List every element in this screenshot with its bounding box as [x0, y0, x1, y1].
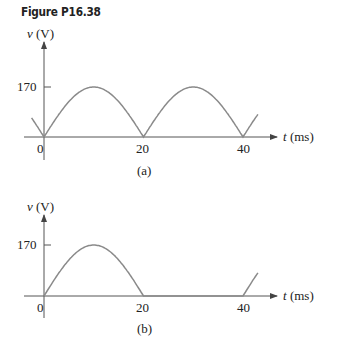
ytick-label-a: 170 — [17, 79, 37, 94]
xtick-20-a: 20 — [136, 141, 149, 156]
xlabel-b: t (ms) — [283, 288, 314, 303]
ylabel-a: v (V) — [27, 26, 54, 41]
caption-a: (a) — [137, 163, 151, 178]
figure-canvas: v (V) 170 0 20 40 t (ms) (a) v (V) 170 0… — [0, 0, 344, 360]
panel-b: v (V) 170 0 20 40 t (ms) (b) — [17, 199, 314, 336]
curve-a — [32, 87, 258, 137]
panel-a: v (V) 170 0 20 40 t (ms) (a) — [17, 26, 314, 178]
xtick-40-b: 40 — [237, 300, 250, 315]
xtick-0-b: 0 — [37, 300, 44, 315]
xtick-0-a: 0 — [37, 141, 44, 156]
ytick-label-b: 170 — [17, 237, 37, 252]
xtick-40-a: 40 — [237, 141, 250, 156]
curve-b — [44, 245, 258, 296]
caption-b: (b) — [137, 321, 152, 336]
ylabel-b: v (V) — [27, 199, 54, 214]
xlabel-a: t (ms) — [283, 129, 314, 144]
xtick-20-b: 20 — [136, 300, 149, 315]
